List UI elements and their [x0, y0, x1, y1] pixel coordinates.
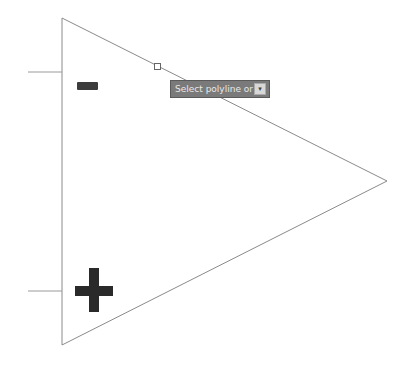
minus-sign-icon: [77, 82, 98, 90]
tooltip-text: Select polyline or: [175, 81, 254, 97]
dropdown-arrow-icon[interactable]: ▾: [254, 83, 266, 95]
command-prompt-tooltip: Select polyline or ▾: [170, 80, 270, 98]
plus-sign-icon-vertical: [89, 268, 99, 312]
drawing-canvas[interactable]: [0, 0, 403, 366]
polyline-grip-handle[interactable]: [154, 63, 161, 70]
